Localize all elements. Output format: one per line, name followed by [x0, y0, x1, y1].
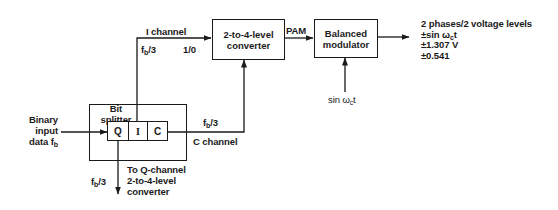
q-channel-rate: fb/3	[91, 176, 106, 187]
q-channel-destination: To Q-channel 2-to-4-level converter	[127, 164, 186, 197]
splitter-cell-c: C	[147, 121, 168, 141]
two-to-four-level-converter: 2-to-4-level converter	[212, 19, 285, 60]
c-channel-label: C channel	[193, 136, 238, 147]
i-channel-label: I channel	[146, 26, 186, 37]
binary-input-label: Binary input data fb	[14, 114, 58, 147]
i-channel-rate: fb/3	[141, 44, 156, 55]
i-channel-logic: 1/0	[183, 44, 196, 55]
pam-label: PAM	[286, 25, 306, 36]
splitter-cell-q: Q	[107, 121, 129, 141]
output-description: 2 phases/2 voltage levels ±sin ωct ±1.30…	[421, 19, 532, 61]
splitter-cell-i: I	[128, 121, 148, 141]
carrier-label: sin ωct	[328, 94, 356, 105]
c-channel-rate: fb/3	[203, 117, 218, 128]
balanced-modulator: Balanced modulator	[314, 19, 378, 58]
